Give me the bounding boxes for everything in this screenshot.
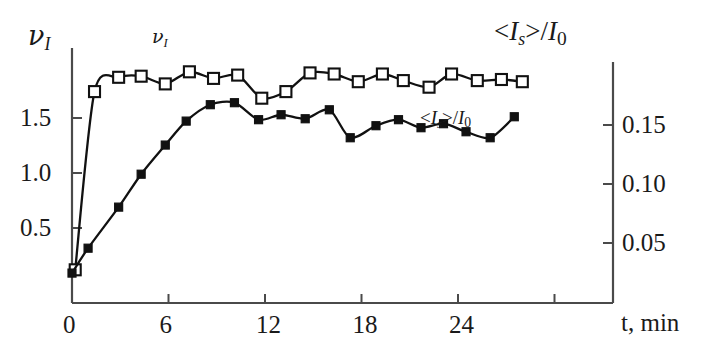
data-point-open-square: [377, 69, 388, 80]
data-point-filled-square: [68, 269, 76, 277]
right-y-tick-label: 0.10: [622, 171, 666, 196]
data-point-open-square: [256, 93, 267, 104]
left-y-tick-label: 1.0: [20, 160, 51, 185]
x-tick-label: 18: [353, 312, 378, 337]
data-point-filled-square: [301, 115, 309, 123]
data-point-open-square: [184, 66, 195, 77]
x-axis-title: t, min: [621, 310, 679, 335]
data-point-open-square: [89, 86, 100, 97]
data-point-open-square: [113, 72, 124, 83]
data-point-filled-square: [182, 117, 190, 125]
chart-figure: νI <Is>/I0 νI <Is>/I0 t, min 061218240.5…: [0, 0, 705, 359]
left-y-tick-label: 0.5: [20, 215, 51, 240]
data-point-filled-square: [346, 134, 354, 142]
data-point-open-square: [136, 71, 147, 82]
series-annotation-nu-i: νI: [152, 27, 168, 49]
data-point-filled-square: [325, 106, 333, 114]
data-point-filled-square: [510, 113, 518, 121]
data-point-open-square: [329, 69, 340, 80]
right-axis-title: <Is>/I0: [494, 18, 567, 49]
data-series-group: [68, 66, 528, 277]
chart-canvas: [0, 0, 705, 359]
data-point-filled-square: [84, 244, 92, 252]
x-tick-label: 0: [63, 312, 76, 337]
data-point-open-square: [446, 69, 457, 80]
data-point-open-square: [280, 86, 291, 97]
data-point-filled-square: [372, 122, 380, 130]
data-point-open-square: [424, 82, 435, 93]
data-point-filled-square: [115, 203, 123, 211]
series-annotation-is-i0: <Is>/I0: [420, 108, 471, 130]
data-point-open-square: [305, 67, 316, 78]
data-point-open-square: [398, 75, 409, 86]
axis-ticks: [72, 118, 613, 303]
data-point-open-square: [496, 74, 507, 85]
x-tick-label: 12: [256, 312, 281, 337]
data-point-open-square: [517, 76, 528, 87]
data-point-open-square: [232, 70, 243, 81]
axes-group: [72, 48, 613, 303]
right-y-tick-label: 0.15: [622, 112, 666, 137]
x-tick-label: 24: [449, 312, 474, 337]
data-point-filled-square: [486, 134, 494, 142]
data-point-filled-square: [277, 111, 285, 119]
right-y-tick-label: 0.05: [622, 230, 666, 255]
data-point-open-square: [208, 73, 219, 84]
data-point-filled-square: [206, 101, 214, 109]
data-point-filled-square: [137, 170, 145, 178]
data-point-filled-square: [255, 116, 263, 124]
left-y-tick-label: 1.5: [20, 105, 51, 130]
data-point-open-square: [353, 76, 364, 87]
data-point-filled-square: [161, 141, 169, 149]
x-tick-label: 6: [160, 312, 173, 337]
data-point-open-square: [160, 78, 171, 89]
left-axis-title: νI: [28, 22, 50, 54]
data-point-filled-square: [230, 99, 238, 107]
data-point-filled-square: [394, 116, 402, 124]
data-point-open-square: [472, 75, 483, 86]
